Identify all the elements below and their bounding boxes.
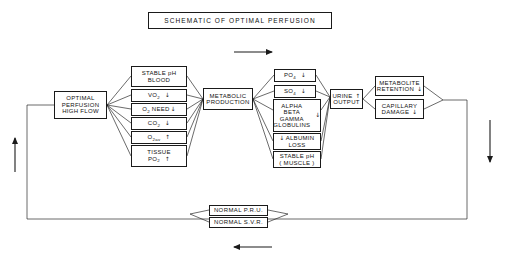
- node-globulins-line4: GLOBULINS: [273, 122, 310, 128]
- node-stable-ph-blood: STABLE pH BLOOD: [131, 66, 187, 87]
- node-capillary-damage: CAPILLARY DAMAGE ↓: [375, 99, 424, 119]
- node-po4: PO4 ↓: [274, 69, 316, 82]
- node-so4-arrow-icon: ↓: [300, 88, 306, 94]
- diagram-title: SCHEMATIC OF OPTIMAL PERFUSION: [148, 12, 332, 29]
- node-stable-ph-muscle: STABLE pH ( MUSCLE ): [273, 151, 321, 168]
- node-metabolic-production-line2: PRODUCTION: [206, 99, 249, 105]
- node-co2-label: CO: [148, 120, 158, 126]
- node-optimal-perfusion-line3: HIGH FLOW: [62, 108, 99, 114]
- node-vo2-text: VO2 ↓: [148, 92, 170, 99]
- node-globulins-stack: ALPHA BETA GAMMA GLOBULINS: [273, 103, 310, 129]
- node-albumin-loss-line2: LOSS: [288, 142, 305, 148]
- node-urine-output-label1: URINE: [332, 93, 352, 99]
- edge-urine-capillary: [363, 99, 375, 109]
- edge-metabolite-loop: [424, 86, 443, 100]
- node-globulins-row: ALPHA BETA GAMMA GLOBULINS ↓: [274, 103, 320, 129]
- node-urine-output: URINE ↑ OUTPUT: [330, 89, 363, 109]
- node-metabolic-production: METABOLIC PRODUCTION: [203, 88, 253, 110]
- edge-capillary-loop: [424, 100, 443, 109]
- edge-ph-muscle-urine: [321, 97, 330, 159]
- node-so4-text: SO4 ↓: [284, 88, 306, 95]
- edge-metabolic-albumin: [253, 99, 273, 141]
- node-po4-sub: 4: [293, 75, 296, 80]
- node-o2-need-arrow-icon: ↓: [170, 106, 176, 112]
- node-tissue-po2-arrow-icon: ↑: [164, 156, 170, 162]
- node-o2-need-label2: NEED: [150, 106, 170, 112]
- node-metabolite-retention-line2: RETENTION ↓: [377, 86, 422, 92]
- edge-optimal-tissue: [107, 105, 131, 156]
- edge-optimal-ph-blood: [107, 76, 131, 105]
- node-co2: CO2 ↓: [131, 117, 187, 130]
- node-o2av-arrow-icon: ↑: [164, 134, 170, 140]
- bottom-fan-right: [268, 210, 288, 222]
- edge-o2av-metabolic: [187, 99, 203, 137]
- node-metabolite-retention-arrow-icon: ↓: [416, 86, 422, 92]
- node-tissue-po2: TISSUE PO2 ↑: [131, 145, 187, 167]
- node-po4-text: PO4 ↓: [284, 72, 306, 79]
- edge-optimal-o2need: [107, 105, 131, 109]
- node-vo2-sub: 2: [157, 95, 160, 100]
- node-albumin-loss: ↓ALBUMIN LOSS: [273, 133, 321, 150]
- node-co2-sub: 2: [157, 123, 160, 128]
- node-vo2-label: VO: [148, 92, 157, 98]
- node-o2av: O2av ↑: [131, 131, 187, 144]
- node-vo2: VO2 ↓: [131, 89, 187, 102]
- node-o2-need: O2 NEED↓: [131, 103, 187, 116]
- node-capillary-damage-line2: DAMAGE ↓: [382, 109, 418, 115]
- node-metabolite-retention-label2: RETENTION: [377, 86, 414, 92]
- node-po4-arrow-icon: ↓: [300, 72, 306, 78]
- edge-optimal-o2av: [107, 105, 131, 137]
- node-tissue-po2-sub: 2: [157, 158, 160, 163]
- schematic-diagram: SCHEMATIC OF OPTIMAL PERFUSION OPTIMAL P…: [0, 0, 509, 259]
- node-albumin-loss-label1: ALBUMIN: [286, 135, 315, 141]
- node-o2av-text: O2av ↑: [148, 134, 171, 141]
- node-so4-sub: 4: [293, 91, 296, 96]
- diagram-title-text: SCHEMATIC OF OPTIMAL PERFUSION: [164, 17, 315, 24]
- edge-metabolic-po4: [253, 75, 274, 99]
- node-optimal-perfusion: OPTIMAL PERFUSION HIGH FLOW: [54, 91, 107, 119]
- node-po4-label: PO: [284, 72, 293, 78]
- node-urine-output-arrow-icon: ↑: [355, 93, 361, 99]
- node-o2av-sub: 2av: [153, 137, 161, 142]
- node-co2-text: CO2 ↓: [148, 120, 170, 127]
- node-globulins: ALPHA BETA GAMMA GLOBULINS ↓: [273, 99, 321, 132]
- node-tissue-po2-label: PO: [148, 156, 157, 162]
- node-o2av-label: O: [148, 134, 153, 140]
- node-normal-pru: NORMAL P.R.U.: [209, 205, 268, 216]
- node-tissue-po2-line2: PO2 ↑: [148, 156, 170, 163]
- node-metabolite-retention: METABOLITE RETENTION ↓: [375, 76, 424, 96]
- node-stable-ph-blood-line2: BLOOD: [148, 77, 171, 83]
- node-o2-need-sub: 2: [147, 109, 150, 114]
- node-stable-ph-muscle-line2: ( MUSCLE ): [279, 160, 314, 166]
- node-o2-need-text: O2 NEED↓: [142, 106, 176, 113]
- edge-urine-metabolite: [363, 86, 375, 99]
- node-normal-svr-text: NORMAL S.V.R.: [214, 219, 263, 225]
- node-capillary-damage-label2: DAMAGE: [382, 109, 410, 115]
- node-normal-pru-text: NORMAL P.R.U.: [214, 207, 263, 213]
- node-so4-label: SO: [284, 88, 293, 94]
- bottom-fan-left: [190, 210, 209, 222]
- node-capillary-damage-arrow-icon: ↓: [411, 109, 417, 115]
- node-normal-svr: NORMAL S.V.R.: [209, 217, 268, 228]
- node-so4: SO4 ↓: [274, 85, 316, 98]
- node-co2-arrow-icon: ↓: [164, 120, 170, 126]
- node-urine-output-line2: OUTPUT: [333, 99, 359, 105]
- edge-optimal-vo2: [107, 95, 131, 105]
- edge-co2-metabolic: [187, 99, 203, 123]
- edge-optimal-co2: [107, 105, 131, 123]
- node-globulins-arrow-icon: ↓: [315, 112, 320, 118]
- node-vo2-arrow-icon: ↓: [164, 92, 170, 98]
